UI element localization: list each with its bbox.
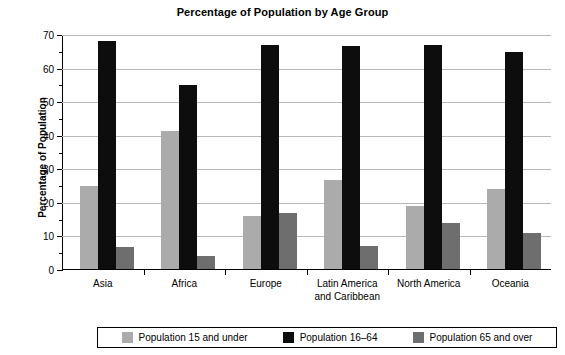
bar[interactable] [179, 85, 197, 269]
chart-title: Percentage of Population by Age Group [0, 6, 565, 18]
x-axis-label: Europe [225, 278, 307, 291]
y-tick-major [57, 102, 62, 103]
y-tick-minor [59, 153, 62, 154]
legend-item[interactable]: Population 65 and over [413, 332, 533, 343]
y-tick-minor [59, 186, 62, 187]
x-axis-label: Asia [62, 278, 144, 291]
gridline [62, 136, 551, 137]
y-tick-major [57, 270, 62, 271]
y-tick-label: 20 [43, 197, 54, 208]
x-tick [225, 270, 226, 275]
bar[interactable] [116, 247, 134, 269]
legend-swatch-icon [122, 332, 133, 343]
bar-group [324, 34, 378, 269]
legend-label: Population 65 and over [430, 332, 533, 343]
x-axis-label: Latin America and Caribbean [307, 278, 389, 303]
x-axis-label: Oceania [470, 278, 552, 291]
y-tick-major [57, 136, 62, 137]
bar[interactable] [324, 180, 342, 269]
bar[interactable] [80, 186, 98, 269]
y-tick-minor [59, 52, 62, 53]
gridline [62, 236, 551, 237]
legend-swatch-icon [283, 332, 294, 343]
legend-swatch-icon [413, 332, 424, 343]
y-tick-minor [59, 119, 62, 120]
legend-item[interactable]: Population 15 and under [122, 332, 248, 343]
y-tick-label: 0 [48, 265, 54, 276]
y-tick-label: 30 [43, 164, 54, 175]
gridline [62, 203, 551, 204]
bar-group [243, 34, 297, 269]
legend-label: Population 15 and under [139, 332, 248, 343]
bar[interactable] [406, 206, 424, 269]
bar-group [487, 34, 541, 269]
bar[interactable] [243, 216, 261, 269]
y-tick-minor [59, 253, 62, 254]
x-axis-label: Africa [144, 278, 226, 291]
bar[interactable] [197, 256, 215, 269]
bar[interactable] [161, 131, 179, 269]
gridline [62, 169, 551, 170]
y-tick-major [57, 35, 62, 36]
gridline [62, 102, 551, 103]
y-tick-label: 50 [43, 97, 54, 108]
bar[interactable] [424, 45, 442, 269]
x-tick [144, 270, 145, 275]
y-tick-minor [59, 85, 62, 86]
legend-item[interactable]: Population 16–64 [283, 332, 378, 343]
x-axis-label: North America [388, 278, 470, 291]
y-tick-label: 40 [43, 130, 54, 141]
y-tick-label: 70 [43, 30, 54, 41]
gridline [62, 69, 551, 70]
y-tick-minor [59, 220, 62, 221]
y-tick-major [57, 69, 62, 70]
bar[interactable] [505, 52, 523, 269]
y-tick-label: 60 [43, 63, 54, 74]
chart-legend: Population 15 and underPopulation 16–64P… [97, 327, 557, 348]
bar[interactable] [279, 213, 297, 269]
gridline [62, 35, 551, 36]
bar[interactable] [442, 223, 460, 269]
bar-group [406, 34, 460, 269]
x-tick [388, 270, 389, 275]
x-tick [470, 270, 471, 275]
y-tick-label: 10 [43, 231, 54, 242]
y-tick-major [57, 169, 62, 170]
bar[interactable] [360, 246, 378, 269]
bar[interactable] [261, 45, 279, 269]
y-tick-major [57, 236, 62, 237]
x-tick [307, 270, 308, 275]
bar-group [161, 34, 215, 269]
bar[interactable] [487, 189, 505, 269]
plot-area: 010203040506070 [62, 35, 551, 270]
bar-group [80, 34, 134, 269]
y-axis-title: Percentage of Population [37, 63, 48, 253]
bar[interactable] [523, 233, 541, 269]
bar[interactable] [342, 46, 360, 269]
legend-label: Population 16–64 [300, 332, 378, 343]
bar[interactable] [98, 41, 116, 269]
y-tick-major [57, 203, 62, 204]
